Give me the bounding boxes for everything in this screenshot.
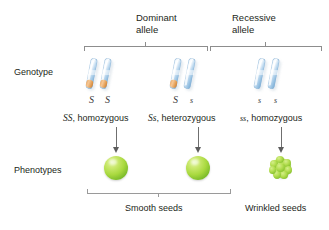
allele-symbol-3a: s — [258, 96, 261, 105]
genotype-description-1: SS, homozygous — [63, 113, 129, 123]
allele-symbol-1a: S — [89, 94, 94, 105]
chromosome-centromere — [88, 70, 96, 75]
seed-smooth-1 — [104, 156, 128, 180]
recessive-allele-line1: Recessive — [232, 12, 276, 24]
genotype-symbol-1: SS — [63, 113, 73, 123]
arrow-line-1 — [116, 127, 117, 149]
dominant-allele-bracket — [84, 46, 208, 51]
genotype-text-2: , heterozygous — [156, 113, 215, 123]
phenotype-label-smooth: Smooth seeds — [125, 203, 183, 214]
arrow-line-3 — [281, 127, 282, 149]
chromosome-centromere — [256, 70, 264, 75]
recessive-allele-bracket — [210, 46, 322, 51]
chromosome-centromere — [186, 70, 194, 75]
recessive-allele-line2: allele — [232, 24, 276, 36]
genotype-text-1: , homozygous — [73, 113, 129, 123]
allele-symbol-2a: S — [173, 94, 178, 105]
chromosome-centromere — [102, 70, 110, 75]
chromosome-centromere — [172, 70, 180, 75]
recessive-allele-bracket-tick — [265, 42, 266, 46]
recessive-allele-header: Recessive allele — [232, 12, 276, 35]
genotype-description-3: ss, homozygous — [240, 113, 302, 123]
genotype-text-3: , homozygous — [246, 113, 302, 123]
smooth-seeds-bracket-tick — [158, 193, 159, 197]
seed-highlight — [109, 159, 117, 165]
row-label-phenotypes: Phenotypes — [14, 165, 62, 175]
seed-lump — [276, 163, 285, 172]
chromosome-centromere — [270, 70, 278, 75]
allele-symbol-3b: s — [274, 96, 277, 105]
allele-symbol-2b: s — [190, 96, 193, 105]
arrow-line-2 — [198, 127, 199, 149]
seed-lump — [269, 166, 276, 174]
chromosome-1 — [253, 58, 266, 90]
dominant-allele-bracket-tick — [145, 42, 146, 46]
dominant-allele-line1: Dominant — [136, 12, 177, 24]
smooth-seeds-bracket — [87, 189, 231, 194]
arrow-head-3 — [278, 147, 284, 153]
chromosome-1 — [169, 58, 182, 90]
allele-symbol-1b: S — [105, 94, 110, 105]
genotype-phenotype-diagram: Dominant allele Recessive allele Genotyp… — [0, 0, 329, 230]
seed-highlight — [191, 159, 199, 165]
row-label-genotype: Genotype — [14, 67, 53, 77]
chromosome-2 — [183, 58, 196, 90]
arrow-head-2 — [195, 147, 201, 153]
dominant-allele-line2: allele — [136, 24, 177, 36]
chromosome-1 — [85, 58, 98, 90]
arrow-head-1 — [113, 147, 119, 153]
chromosome-2 — [99, 58, 112, 90]
genotype-description-2: Ss, heterozygous — [148, 113, 216, 123]
dominant-allele-header: Dominant allele — [136, 12, 177, 35]
phenotype-label-wrinkled: Wrinkled seeds — [245, 203, 306, 214]
seed-lump — [280, 171, 288, 179]
seed-wrinkled-1 — [269, 156, 293, 180]
seed-smooth-2 — [186, 156, 210, 180]
chromosome-2 — [267, 58, 280, 90]
